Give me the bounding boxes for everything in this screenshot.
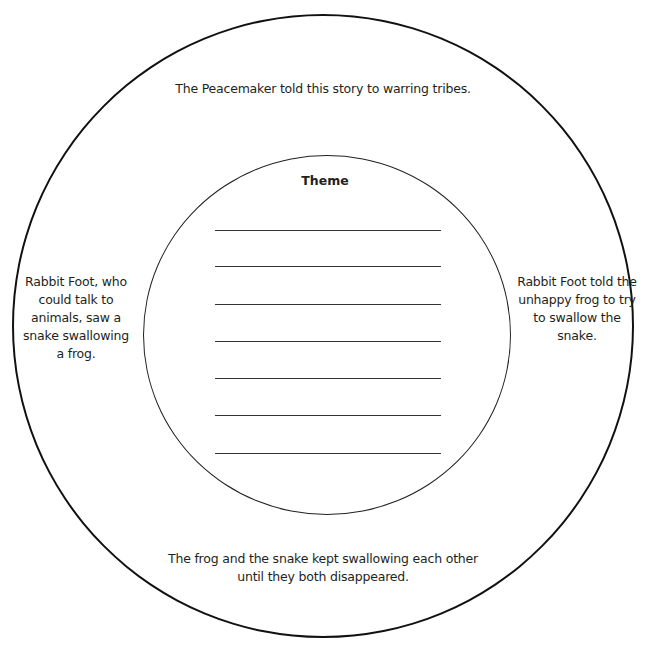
left-line: could talk to [0,291,152,309]
right-event-text: Rabbit Foot told the unhappy frog to try… [507,273,646,345]
theme-answer-line-3[interactable] [215,304,441,305]
theme-answer-line-6[interactable] [215,415,441,416]
left-event-text: Rabbit Foot, who could talk to animals, … [0,273,152,363]
left-line: Rabbit Foot, who [0,273,152,291]
theme-answer-line-4[interactable] [215,341,441,342]
theme-answer-line-5[interactable] [215,378,441,379]
inner-circle [143,155,511,515]
top-event-text: The Peacemaker told this story to warrin… [120,80,526,98]
theme-answer-line-1[interactable] [215,230,441,231]
bottom-event-text: The frog and the snake kept swallowing e… [120,550,526,586]
right-line: to swallow the [507,309,646,327]
right-line: snake. [507,327,646,345]
theme-answer-line-2[interactable] [215,266,441,267]
right-line: Rabbit Foot told the [507,273,646,291]
bottom-line: The frog and the snake kept swallowing e… [120,550,526,568]
theme-title: Theme [260,173,390,188]
left-line: animals, saw a [0,309,152,327]
left-line: snake swallowing [0,327,152,345]
bottom-line: until they both disappeared. [120,568,526,586]
left-line: a frog. [0,345,152,363]
theme-answer-line-7[interactable] [215,453,441,454]
right-line: unhappy frog to try [507,291,646,309]
